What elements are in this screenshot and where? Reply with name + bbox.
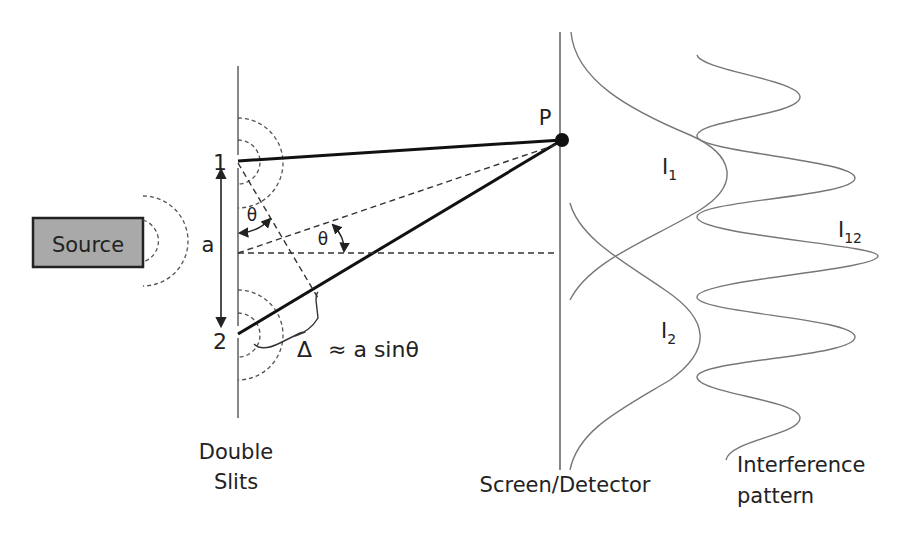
source-wavefront-inner bbox=[143, 220, 158, 262]
theta-label-center: θ bbox=[318, 229, 328, 249]
source-box: Source bbox=[33, 218, 143, 267]
i1-label: I1 bbox=[662, 155, 677, 183]
point-P-marker bbox=[555, 133, 569, 147]
pattern-caption-line1: Interference bbox=[737, 453, 865, 477]
theta-label-slit: θ bbox=[247, 205, 257, 225]
i2-label: I2 bbox=[661, 319, 676, 347]
interference-curve-I12 bbox=[697, 55, 878, 460]
slit-2-label: 2 bbox=[213, 329, 227, 354]
double-slits-caption-line1: Double bbox=[199, 440, 273, 464]
point-P-label: P bbox=[539, 106, 552, 130]
source-wavefront-outer bbox=[143, 196, 188, 286]
source-label: Source bbox=[52, 233, 124, 257]
theta-arc-center bbox=[333, 225, 344, 251]
separation-label: a bbox=[202, 233, 215, 257]
intensity-curve-I2 bbox=[570, 203, 700, 470]
intensity-curve-I1 bbox=[570, 32, 727, 300]
slit2-wavefront-outer bbox=[238, 290, 283, 380]
path-difference-formula: ≈ a sinθ bbox=[328, 337, 419, 362]
delta-symbol: Δ bbox=[297, 337, 312, 362]
screen-caption: Screen/Detector bbox=[480, 473, 651, 497]
slit2-wavefront-inner bbox=[238, 313, 260, 357]
slit-1-label: 1 bbox=[213, 150, 227, 175]
pattern-caption-line2: pattern bbox=[737, 484, 814, 508]
ray-from-slit-1 bbox=[238, 140, 562, 161]
double-slit-diagram: Source a 1 2 θ θ Δ ≈ a sinθ P I1 I2 I12 … bbox=[0, 0, 912, 533]
double-slits-caption-line2: Slits bbox=[214, 470, 258, 494]
i12-label: I12 bbox=[838, 218, 862, 246]
